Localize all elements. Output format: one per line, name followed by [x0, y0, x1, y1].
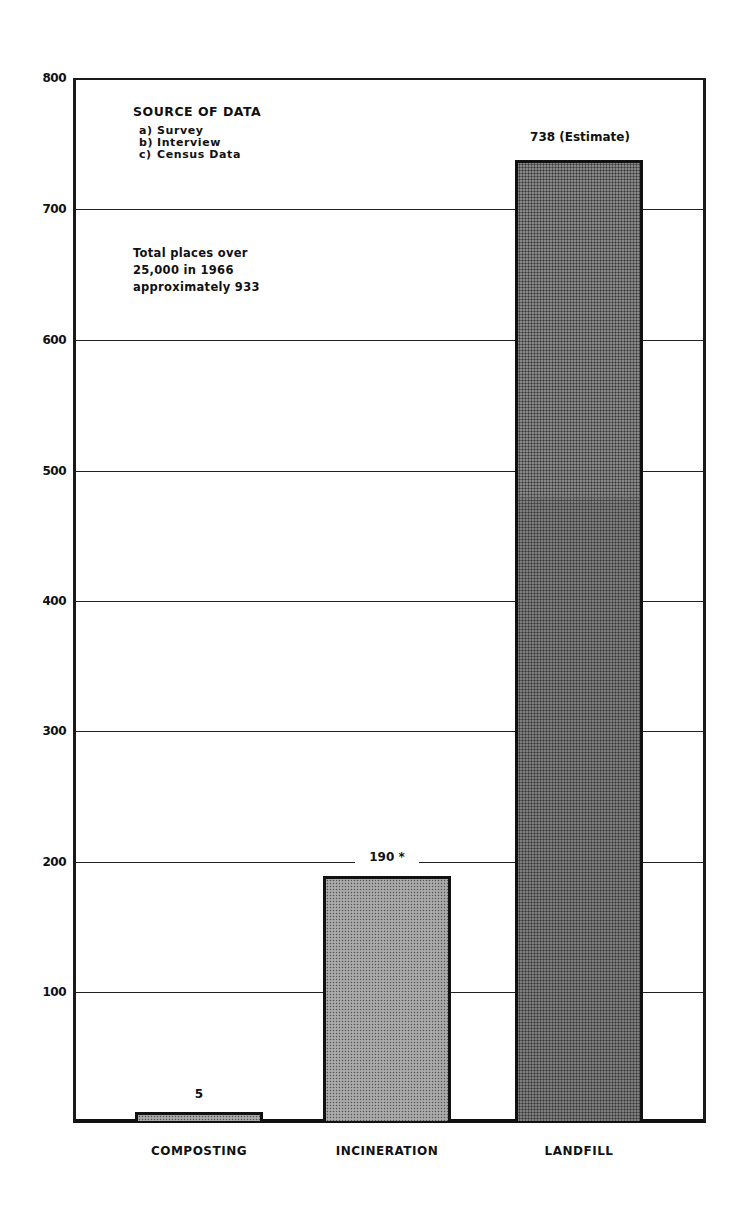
source-note: SOURCE OF DATA a)Survey b)Interview c)Ce… [133, 104, 261, 161]
total-places-note: Total places over 25,000 in 1966 approxi… [133, 245, 260, 296]
ytick-800: 800 [14, 71, 66, 85]
value-label-incineration: 190 * [355, 850, 419, 864]
value-label-landfill: 738 (Estimate) [516, 130, 644, 144]
bar-chart: 800 700 600 500 400 300 200 100 SOURCE O… [0, 0, 742, 1220]
bar-lower-shade [518, 498, 640, 1121]
ytick-700: 700 [14, 202, 66, 216]
source-list: a)Survey b)Interview c)Census Data [139, 125, 261, 161]
ytick-600: 600 [14, 333, 66, 347]
value-label-composting: 5 [180, 1087, 218, 1101]
source-item: c)Census Data [139, 149, 261, 161]
ytick-200: 200 [14, 855, 66, 869]
ytick-500: 500 [14, 464, 66, 478]
source-title: SOURCE OF DATA [133, 104, 261, 119]
ytick-400: 400 [14, 594, 66, 608]
bar-composting [135, 1112, 263, 1121]
bar-incineration [323, 876, 451, 1121]
bar-landfill [515, 160, 643, 1121]
ytick-300: 300 [14, 724, 66, 738]
category-label-landfill: LANDFILL [509, 1144, 649, 1158]
category-label-incineration: INCINERATION [317, 1144, 457, 1158]
ytick-100: 100 [14, 985, 66, 999]
category-label-composting: COMPOSTING [129, 1144, 269, 1158]
